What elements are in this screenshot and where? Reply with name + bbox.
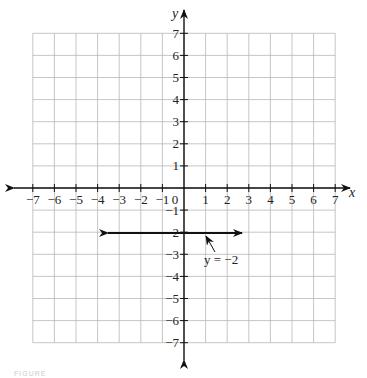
x-tick-label: −2 — [134, 192, 148, 207]
y-tick-label: 3 — [173, 114, 180, 129]
annotation-pointer — [206, 236, 215, 252]
y-axis-label: y — [170, 6, 179, 21]
x-tick-label: −7 — [26, 192, 40, 207]
line-label: y = −2 — [204, 252, 238, 267]
y-tick-label: 7 — [173, 26, 180, 41]
axes — [14, 10, 350, 360]
y-tick-label: 1 — [173, 158, 180, 173]
x-tick-label: 3 — [246, 192, 253, 207]
y-tick-label: −3 — [165, 247, 179, 262]
x-tick-label: 5 — [289, 192, 296, 207]
y-tick-label: 5 — [173, 70, 180, 85]
y-tick-label: −4 — [165, 269, 179, 284]
y-tick-label: −7 — [165, 335, 179, 350]
y-tick-label: −1 — [165, 203, 179, 218]
x-tick-label: −3 — [112, 192, 126, 207]
x-tick-label: −4 — [91, 192, 105, 207]
x-tick-label: 4 — [267, 192, 274, 207]
figure-caption: FIGURE — [14, 370, 46, 377]
y-tick-label: −6 — [165, 313, 179, 328]
x-tick-label: 7 — [332, 192, 339, 207]
x-tick-label: 2 — [224, 192, 231, 207]
coordinate-plane: −7−6−5−4−3−2−1012345677654321−1−2−3−4−5−… — [0, 0, 367, 378]
x-tick-label: 1 — [202, 192, 209, 207]
y-tick-label: −5 — [165, 291, 179, 306]
x-axis-label: x — [348, 185, 356, 200]
y-tick-label: 6 — [173, 48, 180, 63]
y-tick-label: 2 — [173, 136, 180, 151]
x-tick-label: 6 — [310, 192, 317, 207]
y-tick-label: 4 — [173, 92, 180, 107]
x-tick-label: −6 — [47, 192, 61, 207]
x-tick-label: −5 — [69, 192, 83, 207]
